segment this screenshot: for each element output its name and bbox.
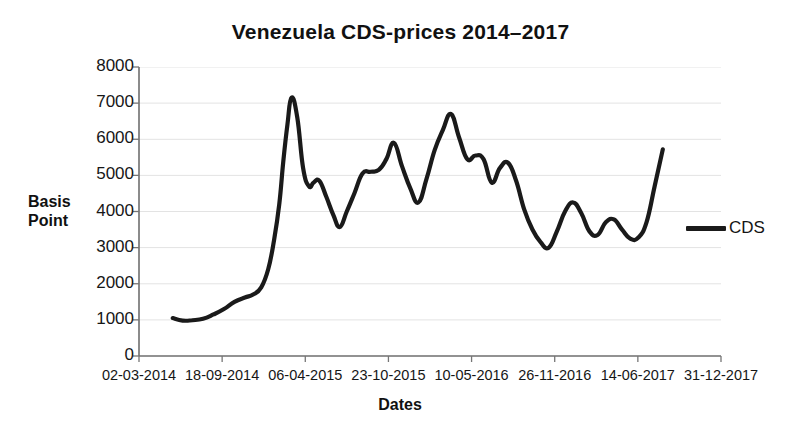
chart-legend: CDS (686, 218, 765, 238)
data-line-cds (173, 97, 663, 320)
plot-area (139, 67, 721, 356)
y-axis-title: Basis Point (28, 192, 88, 230)
y-axis-title-line2: Point (28, 211, 88, 230)
y-tick-label: 8000 (62, 58, 134, 74)
data-series-group (173, 97, 663, 320)
x-tick-label: 31-12-2017 (671, 367, 771, 383)
x-axis-tick-labels: 02-03-201418-09-201406-04-201523-10-2015… (0, 367, 801, 389)
y-tick-label: 5000 (62, 166, 134, 182)
chart-canvas (139, 67, 721, 356)
legend-swatch-cds (686, 226, 726, 231)
y-tick-label: 2000 (62, 275, 134, 291)
chart-figure: Venezuela CDS-prices 2014–2017 800070006… (0, 0, 801, 440)
y-tick-label: 1000 (62, 311, 134, 327)
y-tick-label: 7000 (62, 94, 134, 110)
x-axis-title: Dates (330, 396, 470, 414)
y-axis-title-line1: Basis (28, 192, 88, 211)
y-tick-label: 3000 (62, 239, 134, 255)
y-tick-label: 0 (62, 347, 134, 363)
legend-label-cds: CDS (729, 218, 765, 238)
gridlines (139, 67, 721, 320)
y-tick-label: 6000 (62, 130, 134, 146)
